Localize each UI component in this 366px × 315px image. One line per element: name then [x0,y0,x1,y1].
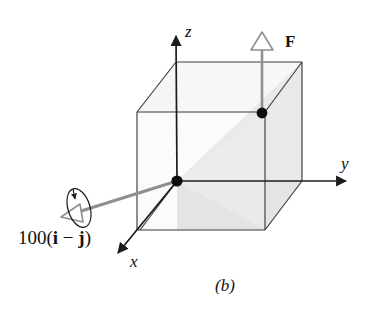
z-axis-label: z [185,23,192,40]
x-axis-label: x [130,253,138,270]
diagram-canvas [0,0,366,315]
z-axis [176,36,177,181]
moment-label-minus: − [58,227,78,248]
moment-label-suffix: ) [85,227,91,248]
rotation-arrowhead [73,189,75,199]
y-axis-label: y [341,155,349,172]
force-application-point [257,108,268,119]
moment-origin-point [171,175,182,186]
figure-caption: (b) [215,277,235,294]
force-vector-label: F [285,33,295,50]
moment-label-prefix: 100( [18,227,53,248]
moment-vector-label: 100(i − j) [18,228,91,247]
figure-container: z y x F 100(i − j) (b) [0,0,366,315]
force-vector-arrowhead [251,32,273,50]
